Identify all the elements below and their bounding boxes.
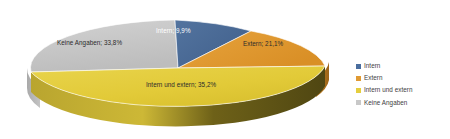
legend-swatch-icon: [356, 88, 361, 93]
legend-item-label: Intern und extern: [364, 87, 412, 93]
legend-item-extern[interactable]: Extern: [356, 72, 450, 84]
data-label-keine-angaben: Keine Angaben; 33,8%: [57, 40, 122, 46]
legend-swatch-icon: [356, 100, 361, 105]
legend-item-keine-angaben[interactable]: Keine Angaben: [356, 97, 450, 109]
chart-legend: Intern Extern Intern und extern Keine An…: [356, 60, 450, 109]
pie-plot-area: Intern; 9,9% Extern; 21,1% Keine Angaben…: [0, 0, 352, 139]
legend-item-label: Intern: [364, 63, 380, 69]
data-label-extern: Extern; 21,1%: [243, 41, 283, 47]
legend-item-intern-und-extern[interactable]: Intern und extern: [356, 84, 450, 96]
legend-swatch-icon: [356, 76, 361, 81]
pie-svg: [0, 0, 352, 139]
pie-chart: Intern; 9,9% Extern; 21,1% Keine Angaben…: [0, 0, 450, 139]
legend-item-label: Extern: [364, 75, 383, 81]
data-label-intern-und-extern: Intern und extern; 35,2%: [146, 82, 216, 88]
data-label-intern: Intern; 9,9%: [156, 28, 191, 34]
legend-swatch-icon: [356, 64, 361, 69]
legend-item-intern[interactable]: Intern: [356, 60, 450, 72]
legend-item-label: Keine Angaben: [364, 100, 407, 106]
